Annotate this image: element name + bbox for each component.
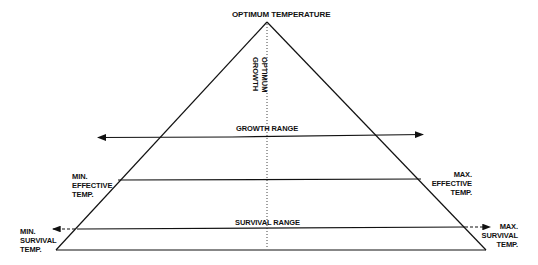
max-survival-temp-label: MAX. SURVIVAL TEMP. [480, 222, 518, 249]
min-survival-line-2: SURVIVAL [20, 236, 56, 245]
min-survival-temp-label: MIN. SURVIVAL TEMP. [20, 227, 56, 254]
max-effective-line-2: EFFECTIVE [420, 179, 472, 188]
growth-range-arrow [98, 137, 232, 138]
survival-range-label: SURVIVAL RANGE [235, 218, 300, 227]
optimum-temperature-label: OPTIMUM TEMPERATURE [232, 10, 330, 19]
optimum-growth-line-1: OPTIMUM [260, 57, 269, 92]
min-effective-line-2: EFFECTIVE [72, 181, 112, 190]
optimum-growth-label: OPTIMUM GROWTH [251, 57, 269, 92]
growth-range-arrow-right [232, 135, 423, 138]
growth-range-label: GROWTH RANGE [236, 124, 298, 133]
triangle-left-edge [56, 22, 267, 250]
survival-range-line [80, 227, 465, 229]
optimum-growth-line-2: GROWTH [251, 57, 260, 92]
min-survival-line-3: TEMP. [20, 245, 56, 254]
min-survival-line-1: MIN. [20, 227, 56, 236]
min-effective-line-1: MIN. [72, 172, 112, 181]
effective-temp-line [118, 179, 421, 180]
max-effective-line-3: TEMP. [420, 188, 472, 197]
max-survival-line-1: MAX. [480, 222, 518, 231]
max-effective-line-1: MAX. [420, 170, 472, 179]
min-effective-line-3: TEMP. [72, 190, 112, 199]
min-effective-temp-label: MIN. EFFECTIVE TEMP. [72, 172, 112, 199]
max-survival-line-3: TEMP. [480, 240, 518, 249]
max-survival-line-2: SURVIVAL [480, 231, 518, 240]
max-effective-temp-label: MAX. EFFECTIVE TEMP. [420, 170, 472, 197]
